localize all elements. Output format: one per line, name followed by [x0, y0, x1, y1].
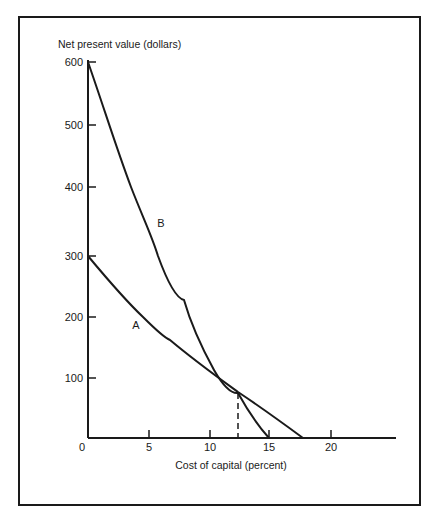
x-tick-label-15: 15	[263, 441, 275, 453]
y-tick-label-500: 500	[65, 119, 83, 131]
x-tick-label-10: 10	[204, 441, 216, 453]
x-ticks	[149, 430, 331, 438]
y-ticks	[88, 62, 96, 378]
series-a-label: A	[132, 319, 140, 331]
y-tick-label-200: 200	[65, 311, 83, 323]
y-tick-label-600: 600	[65, 56, 83, 68]
y-tick-label-400: 400	[65, 181, 83, 193]
y-tick-label-300: 300	[65, 250, 83, 262]
x-tick-label-20: 20	[325, 441, 337, 453]
x-axis-title: Cost of capital (percent)	[175, 459, 286, 471]
x-tick-label-0: 0	[79, 441, 85, 453]
y-axis-title: Net present value (dollars)	[58, 38, 181, 50]
series-a-line	[88, 256, 303, 438]
x-tick-label-5: 5	[146, 441, 152, 453]
y-tick-label-100: 100	[65, 372, 83, 384]
npv-chart: 600 500 400 300 200 100 0 5 10 15 20 Net…	[0, 0, 443, 529]
series-b-line	[88, 62, 269, 438]
series-b-label: B	[157, 217, 164, 229]
